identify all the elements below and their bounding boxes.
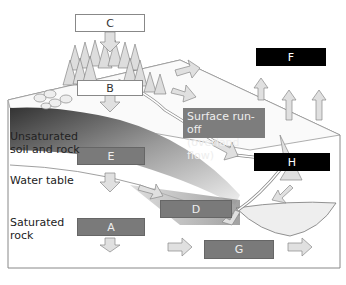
unsaturated-line2: soil and rock xyxy=(10,143,80,156)
box-b: B xyxy=(77,80,143,96)
unsaturated-label: Unsaturated soil and rock xyxy=(10,130,80,156)
box-c: C xyxy=(75,14,145,32)
surface-runoff-line2: (overland flow) xyxy=(187,136,261,162)
box-h: H xyxy=(254,153,330,171)
saturated-line1: Saturated xyxy=(10,216,64,229)
box-g: G xyxy=(204,240,274,259)
box-d: D xyxy=(160,200,232,218)
saturated-line2: rock xyxy=(10,229,64,242)
water-table-label: Water table xyxy=(10,174,74,187)
box-e: E xyxy=(77,147,145,165)
saturated-label: Saturated rock xyxy=(10,216,64,242)
surface-runoff-line1: Surface run-off xyxy=(187,110,261,136)
unsaturated-line1: Unsaturated xyxy=(10,130,80,143)
box-f: F xyxy=(256,48,326,66)
surface-runoff-label: Surface run-off (overland flow) xyxy=(183,108,265,138)
box-a: A xyxy=(77,218,145,236)
